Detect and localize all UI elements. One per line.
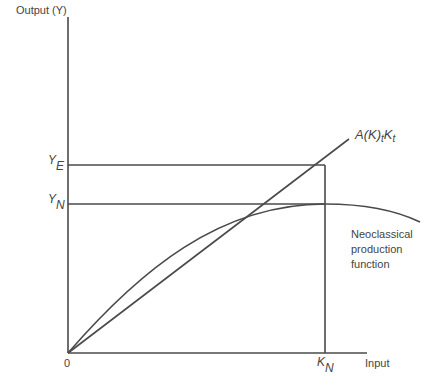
- curve-label: Neoclassical production function: [351, 227, 413, 272]
- kn-tick-label: KN: [317, 355, 334, 369]
- x-axis-label: Input: [365, 357, 389, 369]
- ye-tick-label: YE: [48, 153, 64, 167]
- yn-tick-label: YN: [48, 192, 65, 206]
- line-label: A(K)tKt: [355, 127, 395, 142]
- linear-production-line: [68, 139, 349, 353]
- diagram-canvas: [0, 0, 439, 390]
- y-axis-label: Output (Y): [16, 4, 67, 16]
- origin-label: 0: [64, 357, 70, 369]
